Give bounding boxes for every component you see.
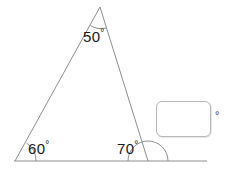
left-angle-value: 60 [28,140,45,157]
left-angle-label: 60° [28,140,49,156]
answer-input[interactable] [156,101,211,137]
degree-symbol-icon: ° [45,139,49,150]
geometry-figure: 50° 60° 70° ° [0,0,234,179]
degree-symbol-icon: ° [134,139,138,150]
apex-angle-label: 50° [83,28,104,44]
answer-degree-symbol-icon: ° [215,110,219,121]
degree-symbol-icon: ° [100,27,104,38]
apex-angle-value: 50 [83,28,100,45]
right-angle-label: 70° [117,140,138,156]
triangle-right-side [100,7,148,161]
right-angle-value: 70 [117,140,134,157]
